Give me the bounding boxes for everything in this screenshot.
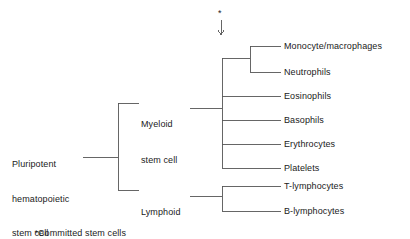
- node-pluripotent-line-1: Pluripotent: [12, 159, 69, 171]
- committed-asterisk-marker: *: [218, 9, 222, 18]
- leaf-b-lymphocytes: B-lymphocytes: [284, 206, 344, 218]
- leaf-neutrophils: Neutrophils: [284, 67, 331, 79]
- node-lymphoid-stem-cell: Lymphoid stem cell: [141, 182, 181, 239]
- node-lymphoid-line-1: Lymphoid: [141, 206, 181, 218]
- node-myeloid-line-2: stem cell: [141, 154, 177, 166]
- leaf-erythrocytes: Erythrocytes: [284, 139, 335, 151]
- leaf-eosinophils: Eosinophils: [284, 91, 331, 103]
- leaf-monocyte-macrophages: Monocyte/macrophages: [284, 41, 382, 53]
- hematopoiesis-diagram: * Pluripotent hematopoietic stem cell My…: [0, 0, 410, 239]
- footnote-committed-stem-cells: *Committed stem cells: [24, 218, 126, 239]
- node-pluripotent-line-2: hematopoietic: [12, 194, 69, 206]
- leaf-t-lymphocytes: T-lymphocytes: [284, 181, 343, 193]
- leaf-basophils: Basophils: [284, 115, 324, 127]
- leaf-platelets: Platelets: [284, 163, 319, 175]
- node-myeloid-stem-cell: Myeloid stem cell: [141, 94, 177, 190]
- node-myeloid-line-1: Myeloid: [141, 118, 177, 130]
- footnote-text: Committed stem cells: [38, 228, 126, 238]
